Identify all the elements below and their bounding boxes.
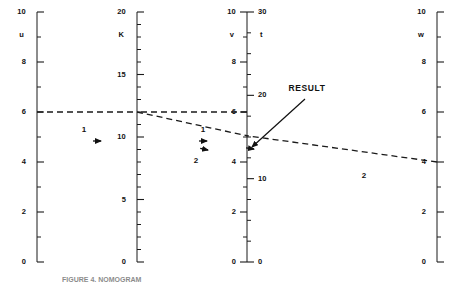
axis-name-u: u (19, 31, 24, 39)
step-number-1-0: 1 (82, 126, 87, 134)
tick-label-w-6: 6 (422, 108, 426, 116)
tick-label-K-15: 15 (117, 71, 126, 79)
step-number-2-2: 2 (194, 157, 199, 165)
tick-label-t-10: 10 (258, 175, 267, 183)
tick-label-v-0: 0 (232, 258, 236, 266)
tick-label-u-0: 0 (22, 258, 26, 266)
arrowhead-step-2-2 (200, 148, 208, 150)
figure-caption: FIGURE 4. NOMOGRAM (62, 276, 141, 282)
tick-label-w-0: 0 (422, 258, 426, 266)
tick-label-K-20: 20 (117, 8, 126, 16)
tick-label-K-10: 10 (117, 133, 126, 141)
axis-name-K: K (118, 31, 124, 39)
tick-label-u-6: 6 (22, 108, 26, 116)
axis-name-v: v (230, 31, 234, 39)
result-label: RESULT (289, 84, 326, 93)
tick-label-v-8: 8 (232, 58, 236, 66)
axis-name-t: t (260, 31, 263, 39)
step-number-1-1: 1 (201, 126, 206, 134)
tick-label-v-10: 10 (227, 8, 236, 16)
tick-label-K-5: 5 (122, 196, 126, 204)
tick-label-w-2: 2 (422, 208, 426, 216)
axis-name-w: w (418, 31, 424, 39)
tick-label-t-20: 20 (258, 92, 267, 100)
construction-line-2-3 (247, 136, 437, 162)
tick-label-K-0: 0 (122, 258, 126, 266)
tick-label-u-2: 2 (22, 208, 26, 216)
construction-line-group (37, 112, 437, 162)
nomogram-figure: 0246810u05101520K0246810v0102030t0246810… (0, 0, 464, 282)
tick-label-t-30: 30 (258, 8, 267, 16)
axis-group (37, 12, 444, 262)
tick-label-u-4: 4 (22, 158, 26, 166)
tick-label-v-6: 6 (232, 108, 236, 116)
construction-line-2-2 (137, 112, 247, 136)
tick-label-w-4: 4 (422, 158, 426, 166)
tick-label-u-8: 8 (22, 58, 26, 66)
tick-label-u-10: 10 (17, 8, 26, 16)
tick-label-v-4: 4 (232, 158, 236, 166)
step-number-2-3: 2 (362, 172, 367, 180)
tick-label-t-0: 0 (258, 258, 262, 266)
tick-label-w-8: 8 (422, 58, 426, 66)
tick-label-v-2: 2 (232, 208, 236, 216)
nomogram-canvas (0, 0, 464, 282)
tick-label-w-10: 10 (417, 8, 426, 16)
